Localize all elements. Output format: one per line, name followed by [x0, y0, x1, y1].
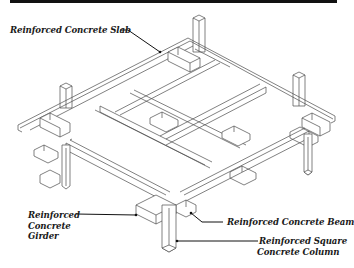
label-girder-line-2: Concrete — [28, 221, 80, 232]
column-right-bottom — [304, 134, 312, 175]
column-front-center — [162, 205, 176, 252]
label-column: Reinforced Square Concrete Column — [259, 236, 347, 257]
label-slab: Reinforced Concrete Slab — [10, 25, 131, 36]
leader-beam — [190, 212, 223, 222]
column-right-top — [293, 72, 305, 106]
label-column-line-1: Reinforced Square — [259, 236, 347, 247]
label-girder: Reinforced Concrete Girder — [28, 210, 80, 242]
label-girder-line-1: Reinforced — [28, 210, 80, 221]
label-beam: Reinforced Concrete Beam — [227, 217, 354, 228]
label-girder-line-3: Girder — [28, 231, 80, 242]
label-column-line-2: Concrete Column — [257, 247, 347, 258]
girder-front-left — [40, 139, 170, 202]
leader-column — [176, 240, 258, 243]
leader-girder — [76, 214, 137, 217]
column-left-bottom — [62, 145, 70, 189]
